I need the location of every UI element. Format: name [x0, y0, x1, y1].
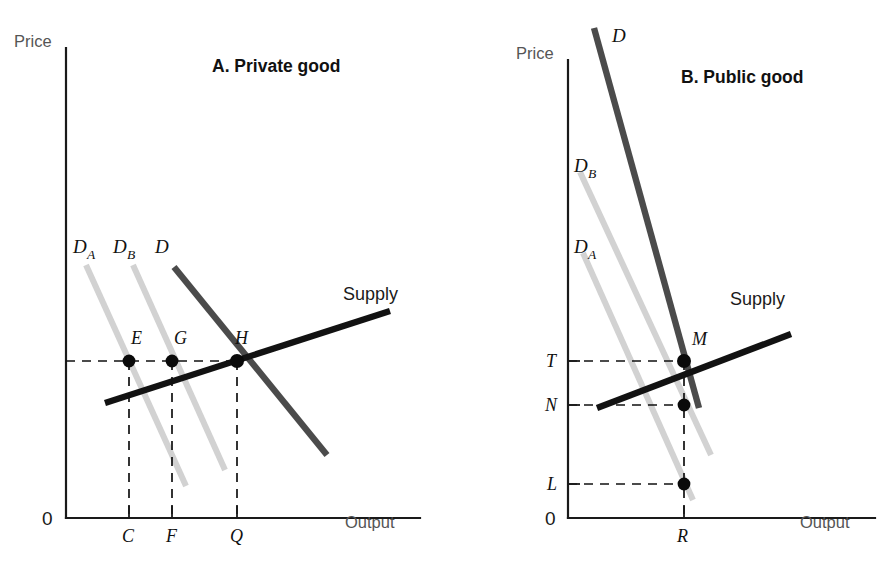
- panel-a: Price Output 0 A. Private good D A D B D…: [14, 32, 420, 546]
- panel-b-ytick-label-n: N: [544, 395, 558, 415]
- panel-a-demand-b-label-sub: B: [127, 247, 135, 262]
- panel-a-point-e-label: E: [130, 328, 142, 348]
- panel-b-demand-a-label: D: [573, 236, 588, 257]
- panel-b-ytick-label-l: L: [546, 474, 557, 494]
- panel-b-point-l-dot: [678, 478, 691, 491]
- panel-a-xtick-label-q: Q: [230, 526, 243, 546]
- panel-a-point-g-label: G: [174, 328, 187, 348]
- panel-b-demand-a-label-sub: A: [587, 247, 597, 262]
- panel-b-origin-label: 0: [545, 508, 556, 529]
- panel-a-point-e-dot: [123, 355, 136, 368]
- panel-b-supply-label: Supply: [730, 289, 785, 309]
- panel-b-xtick-label-r: R: [676, 526, 688, 546]
- panel-a-demand-a-curve: [86, 265, 186, 486]
- panel-a-point-g-dot: [166, 355, 179, 368]
- panel-a-demand-a-label: D: [72, 236, 87, 257]
- panel-a-point-h-label: H: [234, 328, 249, 348]
- panel-a-point-h-dot: [230, 354, 244, 368]
- panel-b-demand-total-label: D: [611, 25, 626, 46]
- panel-b-point-n-dot: [678, 399, 691, 412]
- panel-a-supply-curve: [105, 311, 390, 403]
- panel-a-demand-b-label: D: [112, 236, 127, 257]
- panel-a-supply-label: Supply: [343, 284, 398, 304]
- economics-figure: Price Output 0 A. Private good D A D B D…: [0, 0, 890, 567]
- panel-a-demand-total-label: D: [154, 236, 169, 257]
- panel-b-x-axis-label: Output: [800, 513, 850, 531]
- panel-b-point-m-label: M: [691, 329, 708, 349]
- figure-svg: Price Output 0 A. Private good D A D B D…: [0, 0, 890, 567]
- panel-a-y-axis-label: Price: [14, 32, 52, 50]
- panel-a-origin-label: 0: [42, 508, 53, 529]
- panel-b-ytick-label-t: T: [546, 351, 558, 371]
- panel-b-point-m-dot: [677, 354, 691, 368]
- panel-b: Price Output 0 B. Public good D D B D A …: [516, 25, 875, 546]
- panel-a-title: A. Private good: [212, 56, 340, 76]
- panel-b-y-axis-label: Price: [516, 44, 554, 62]
- panel-a-xtick-label-f: F: [165, 526, 178, 546]
- panel-b-demand-b-label-sub: B: [588, 166, 596, 181]
- panel-b-demand-b-label: D: [573, 155, 588, 176]
- panel-a-xtick-label-c: C: [122, 526, 135, 546]
- panel-b-title: B. Public good: [681, 67, 804, 87]
- panel-a-demand-a-label-sub: A: [86, 247, 96, 262]
- panel-a-x-axis-label: Output: [345, 513, 395, 531]
